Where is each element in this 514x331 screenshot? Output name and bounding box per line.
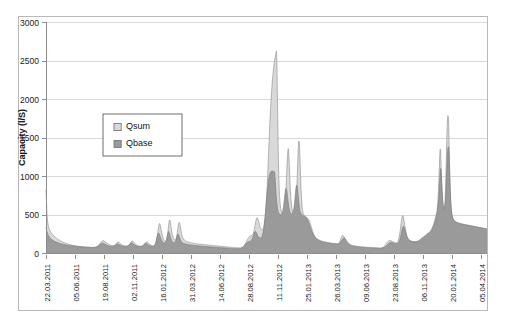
x-tick-label: 28.08.2012 [246,264,255,302]
x-tick-label: 23.08.2013 [391,264,400,302]
legend-swatch-qsum [114,123,121,130]
legend-label-qbase: Qbase [126,138,153,148]
legend-label-qsum: Qsum [126,121,150,131]
legend: QsumQbase [103,114,182,156]
x-tick-label: 09.06.2013 [362,264,371,302]
legend-swatch-qbase [114,140,121,147]
y-axis-title: Capacity (l/S) [17,109,27,166]
y-tick-label: 2500 [20,56,39,66]
x-tick-label: 26.03.2013 [333,264,342,302]
legend-box [103,114,182,156]
y-tick-label: 2000 [20,95,39,105]
y-tick-label: 500 [25,210,39,220]
x-tick-label: 16.01.2012 [159,264,168,302]
y-tick-label: 1000 [20,172,39,182]
x-tick-label: 14.06.2012 [217,264,226,302]
y-tick-label: 3000 [20,18,39,28]
x-tick-label: 22.03.2011 [43,264,52,301]
axes-group: 05001000150020002500300022.03.201105.06.… [20,18,487,302]
x-tick-label: 25.01.2013 [304,264,313,302]
x-tick-label: 05.06.2011 [72,264,81,301]
hydrograph-chart: 05001000150020002500300022.03.201105.06.… [0,0,514,331]
x-tick-label: 06.11.2013 [420,264,429,301]
x-tick-label: 05.04.2014 [478,264,487,302]
x-tick-label: 02.11.2011 [130,264,139,301]
x-tick-label: 11.11.2012 [275,264,284,301]
chart-figure: 05001000150020002500300022.03.201105.06.… [0,0,514,331]
y-tick-label: 0 [34,249,39,259]
x-tick-label: 19.08.2011 [101,264,110,301]
x-tick-label: 31.03.2012 [188,264,197,302]
x-tick-label: 20.01.2014 [449,264,458,302]
